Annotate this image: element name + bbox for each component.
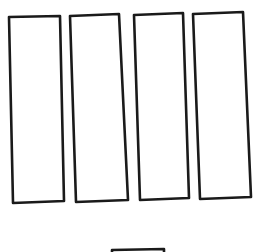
rectangle-2 [70,14,128,202]
sketch-canvas [0,0,261,252]
rectangle-4 [193,12,251,199]
rectangle-1 [9,16,64,203]
rectangle-3 [134,13,189,200]
